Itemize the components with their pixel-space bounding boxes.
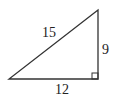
hypotenuse-label: 15 xyxy=(42,25,56,40)
right-angle-marker xyxy=(92,73,98,79)
right-triangle xyxy=(9,10,98,79)
horizontal-leg-label: 12 xyxy=(55,82,69,97)
triangle-diagram: 15 9 12 xyxy=(0,0,115,98)
vertical-leg-label: 9 xyxy=(102,42,109,57)
